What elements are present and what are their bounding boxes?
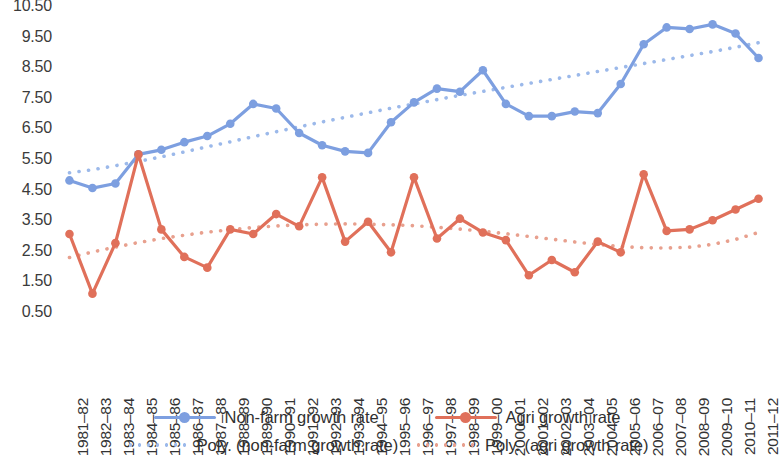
data-point — [593, 237, 602, 246]
y-tick-label: 7.50 — [22, 90, 52, 106]
data-point — [180, 253, 189, 262]
data-point — [364, 149, 373, 158]
data-point — [525, 112, 534, 121]
y-tick-label: 10.50 — [13, 0, 52, 14]
data-point — [479, 228, 488, 237]
y-tick-label: 5.50 — [22, 151, 52, 167]
x-axis: 1981–821982–831983–841984–851985–861986–… — [58, 314, 770, 400]
data-point — [249, 230, 258, 239]
legend-item-2[interactable]: Poly. (non-farm growth rate) — [126, 432, 398, 458]
chart-legend: Non-farm growth rateAgri growth rate Pol… — [0, 402, 774, 464]
data-point — [548, 112, 557, 121]
data-point — [65, 176, 74, 185]
y-tick-label: 0.50 — [22, 304, 52, 320]
legend-row-trend: Poly. (non-farm growth rate)Poly. (agri … — [0, 432, 774, 458]
data-point — [295, 129, 304, 138]
data-point — [341, 237, 350, 246]
y-tick-label: 2.50 — [22, 243, 52, 259]
legend-label: Non-farm growth rate — [225, 408, 379, 426]
data-point — [410, 173, 419, 182]
data-point — [318, 173, 327, 182]
data-point — [180, 138, 189, 147]
legend-swatch-icon — [126, 438, 188, 452]
y-tick-label: 6.50 — [22, 120, 52, 136]
y-tick-label: 8.50 — [22, 59, 52, 75]
data-point — [502, 236, 511, 245]
data-point — [65, 230, 74, 239]
data-point — [433, 234, 442, 243]
legend-row-primary: Non-farm growth rateAgri growth rate — [0, 404, 774, 430]
data-point — [662, 23, 671, 32]
data-point — [88, 184, 97, 193]
trend-line-2 — [69, 43, 758, 173]
data-point — [111, 179, 120, 188]
data-point — [456, 87, 465, 96]
data-point — [341, 147, 350, 156]
data-point — [639, 40, 648, 49]
data-series-0 — [65, 20, 763, 192]
data-point — [593, 109, 602, 118]
data-point — [754, 194, 763, 203]
data-point — [157, 146, 166, 155]
legend-swatch-icon — [154, 410, 216, 424]
y-tick-label: 1.50 — [22, 273, 52, 289]
legend-label: Agri growth rate — [506, 408, 621, 426]
data-point — [731, 29, 740, 38]
data-point — [731, 205, 740, 214]
data-point — [456, 214, 465, 223]
data-point — [249, 100, 258, 109]
legend-label: Poly. (agri growth rate) — [485, 436, 648, 454]
data-point — [157, 225, 166, 234]
y-tick-label: 9.50 — [22, 29, 52, 45]
data-point — [479, 66, 488, 75]
data-point — [318, 141, 327, 150]
data-point — [203, 132, 212, 141]
data-point — [616, 80, 625, 89]
data-point — [525, 271, 534, 280]
data-point — [570, 107, 579, 116]
data-point — [754, 54, 763, 63]
legend-swatch-icon — [435, 410, 497, 424]
data-point — [570, 268, 579, 277]
data-point — [111, 239, 120, 248]
legend-item-1[interactable]: Agri growth rate — [435, 404, 621, 430]
data-point — [548, 256, 557, 265]
data-point — [410, 98, 419, 107]
legend-swatch-icon — [414, 438, 476, 452]
data-point — [639, 170, 648, 179]
data-point — [685, 225, 694, 234]
data-point — [226, 120, 235, 129]
data-point — [708, 216, 717, 225]
data-point — [295, 222, 304, 231]
plot-svg — [58, 6, 770, 312]
data-point — [88, 289, 97, 298]
legend-item-3[interactable]: Poly. (agri growth rate) — [414, 432, 648, 458]
data-point — [433, 84, 442, 93]
data-point — [708, 20, 717, 29]
data-point — [272, 104, 281, 113]
data-point — [134, 150, 143, 159]
data-point — [272, 210, 281, 219]
data-point — [387, 248, 396, 257]
data-point — [387, 118, 396, 127]
data-point — [662, 227, 671, 236]
data-point — [685, 25, 694, 34]
legend-label: Poly. (non-farm growth rate) — [197, 436, 398, 454]
data-point — [226, 225, 235, 234]
data-point — [203, 263, 212, 272]
data-point — [502, 100, 511, 109]
legend-item-0[interactable]: Non-farm growth rate — [154, 404, 379, 430]
y-axis: 10.509.508.507.506.505.504.503.502.501.5… — [0, 0, 58, 320]
data-point — [364, 217, 373, 226]
y-tick-label: 4.50 — [22, 182, 52, 198]
data-point — [616, 248, 625, 257]
y-tick-label: 3.50 — [22, 212, 52, 228]
data-series-1 — [65, 150, 763, 298]
plot-area — [58, 6, 770, 312]
